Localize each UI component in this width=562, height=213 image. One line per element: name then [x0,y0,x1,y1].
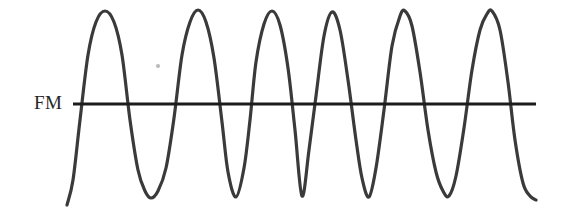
fm-waveform-figure: FM [0,0,562,213]
scan-speck-artifact [156,64,160,68]
waveform-canvas [0,0,562,213]
fm-label: FM [34,92,62,114]
